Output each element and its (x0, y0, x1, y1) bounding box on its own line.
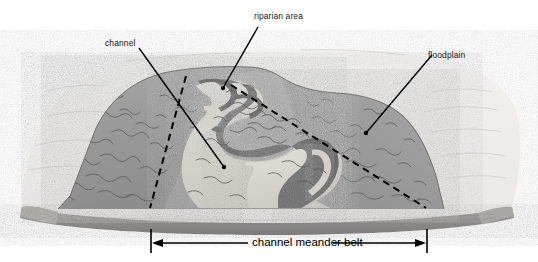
leader-dot-channel (222, 165, 226, 169)
leader-dot-riparian-area (221, 86, 225, 90)
caption-channel-meander-belt: channel meander belt (252, 237, 363, 249)
leader-dot-floodplain (364, 131, 368, 135)
block-diagram-illustration (0, 0, 538, 262)
label-floodplain: floodplain (428, 51, 465, 60)
label-channel: channel (105, 39, 135, 48)
label-riparian-area: riparian area (254, 12, 303, 21)
figure-canvas: channel riparian area floodplain channel… (0, 0, 538, 262)
